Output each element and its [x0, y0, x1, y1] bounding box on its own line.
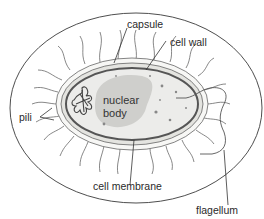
label-nuclear-body: nuclear body [103, 94, 139, 119]
label-flagellum: flagellum [196, 205, 238, 216]
label-nuclear-line1: nuclear [103, 94, 139, 106]
label-nuclear-line2: body [103, 107, 127, 119]
label-cell-membrane: cell membrane [93, 181, 162, 192]
label-capsule: capsule [127, 19, 163, 30]
label-pili: pili [19, 112, 32, 123]
label-cell-wall: cell wall [170, 37, 207, 48]
bacterial-cell-diagram: capsule cell wall nuclear body pili cell… [0, 0, 264, 219]
